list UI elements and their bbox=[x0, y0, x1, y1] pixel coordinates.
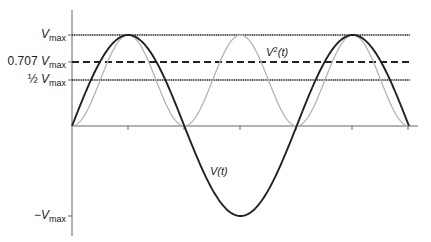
series-label-v: V(t) bbox=[210, 166, 228, 177]
series-label-vsquared: V2(t) bbox=[266, 46, 288, 58]
y-label-vmax: Vmax bbox=[0, 28, 66, 43]
y-label-half-vmax: ½ Vmax bbox=[0, 73, 66, 88]
y-label-neg-vmax: −Vmax bbox=[0, 209, 66, 224]
x-ticks bbox=[128, 126, 408, 130]
y-label-0707-vmax: 0.707 Vmax bbox=[0, 55, 66, 70]
